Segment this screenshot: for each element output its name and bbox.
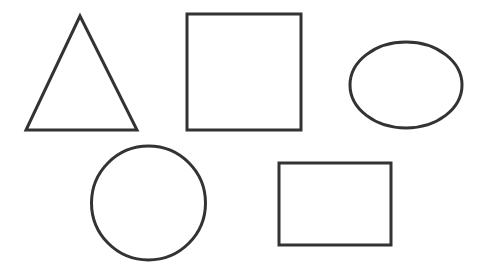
circle-shape bbox=[92, 146, 206, 260]
triangle-shape bbox=[26, 16, 137, 130]
rectangle-shape bbox=[279, 163, 391, 245]
shapes-diagram bbox=[0, 0, 481, 276]
shapes-canvas: Triangle Square Oval Circle Rectangle bbox=[0, 0, 481, 276]
square-shape bbox=[187, 14, 301, 130]
ellipse-shape bbox=[350, 42, 462, 128]
